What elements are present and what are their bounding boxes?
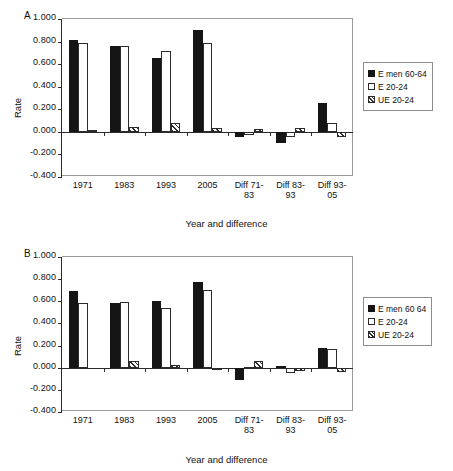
legend-label: UE 20-24 bbox=[378, 330, 414, 340]
x-tick-label: 2005 bbox=[187, 415, 229, 425]
y-tick-label: 0.000 bbox=[14, 361, 56, 371]
legend-swatch-icon bbox=[368, 83, 375, 90]
legend-item: E men 60-64 bbox=[368, 67, 427, 80]
x-tick-label-line: 05 bbox=[311, 190, 353, 200]
y-tick-label: 0.200 bbox=[14, 339, 56, 349]
x-tick-label: Diff 83-93 bbox=[270, 415, 312, 435]
y-tick bbox=[58, 109, 62, 110]
legend-b: E men 60 64E 20-24UE 20-24 bbox=[363, 297, 432, 346]
legend-swatch-icon bbox=[368, 305, 375, 312]
bar bbox=[244, 132, 254, 135]
x-tick-label: Diff 83-93 bbox=[270, 180, 312, 200]
x-tick-label: Diff 93-05 bbox=[311, 180, 353, 200]
y-tick-label: 0.000 bbox=[14, 125, 56, 135]
bar bbox=[161, 51, 171, 132]
x-tick-label: 1971 bbox=[62, 180, 104, 190]
x-tick-label-line: Diff 93- bbox=[311, 180, 353, 190]
x-tick bbox=[228, 132, 229, 136]
bar bbox=[212, 128, 222, 131]
bar bbox=[78, 43, 88, 132]
y-tick-label: 0.800 bbox=[14, 35, 56, 45]
x-axis-title-a: Year and difference bbox=[0, 218, 453, 229]
x-tick-label-line: 1971 bbox=[62, 415, 104, 425]
x-tick-label-line: Diff 71- bbox=[228, 180, 270, 190]
y-tick bbox=[58, 279, 62, 280]
bar bbox=[171, 123, 181, 132]
x-tick bbox=[145, 132, 146, 136]
x-tick-label-line: 83 bbox=[228, 425, 270, 435]
y-tick bbox=[58, 390, 62, 391]
x-tick-label: 1983 bbox=[104, 180, 146, 190]
y-tick bbox=[58, 87, 62, 88]
y-tick bbox=[58, 177, 62, 178]
y-tick-label: -0.200 bbox=[14, 383, 56, 393]
bar bbox=[212, 368, 222, 370]
x-tick bbox=[187, 132, 188, 136]
bar bbox=[129, 361, 139, 368]
legend-item: E 20-24 bbox=[368, 80, 427, 93]
bar bbox=[244, 367, 254, 369]
y-tick bbox=[58, 154, 62, 155]
bar bbox=[171, 365, 181, 368]
x-tick-label: 2005 bbox=[187, 180, 229, 190]
x-tick-label-line: 1993 bbox=[145, 180, 187, 190]
bar bbox=[193, 282, 203, 368]
y-tick-label: -0.400 bbox=[14, 405, 56, 415]
bar bbox=[203, 290, 213, 368]
x-axis-title-b: Year and difference bbox=[0, 454, 453, 465]
bar bbox=[110, 46, 120, 132]
bar bbox=[295, 128, 305, 132]
zero-baseline bbox=[62, 132, 353, 133]
x-tick-label-line: 2005 bbox=[187, 415, 229, 425]
bar bbox=[193, 30, 203, 132]
x-tick bbox=[228, 368, 229, 372]
legend-label: UE 20-24 bbox=[378, 95, 414, 105]
y-tick bbox=[58, 323, 62, 324]
bar bbox=[152, 58, 162, 132]
x-tick-label-line: 83 bbox=[228, 190, 270, 200]
x-tick-label-line: Diff 71- bbox=[228, 415, 270, 425]
bar bbox=[318, 348, 328, 367]
bar bbox=[69, 40, 79, 131]
y-tick bbox=[58, 64, 62, 65]
y-tick bbox=[58, 42, 62, 43]
y-axis-line bbox=[61, 257, 62, 412]
legend-swatch-icon bbox=[368, 70, 375, 77]
y-tick-label: 0.400 bbox=[14, 80, 56, 90]
legend-label: E 20-24 bbox=[378, 317, 408, 327]
y-tick-label: 0.800 bbox=[14, 272, 56, 282]
x-tick-label: Diff 71-83 bbox=[228, 415, 270, 435]
y-tick-label: 0.400 bbox=[14, 316, 56, 326]
y-tick bbox=[58, 19, 62, 20]
y-tick bbox=[58, 412, 62, 413]
legend-label: E men 60-64 bbox=[378, 69, 427, 79]
y-tick-label: 1.000 bbox=[14, 12, 56, 22]
legend-label: E 20-24 bbox=[378, 82, 408, 92]
bar bbox=[327, 123, 337, 131]
x-tick-label-line: 1971 bbox=[62, 180, 104, 190]
bar bbox=[69, 291, 79, 368]
y-axis-line bbox=[61, 19, 62, 177]
bar bbox=[152, 301, 162, 367]
y-tick bbox=[58, 301, 62, 302]
bar bbox=[276, 366, 286, 368]
x-tick bbox=[311, 132, 312, 136]
chart-panel-b: B Rate Year and difference E men 60 64E … bbox=[0, 240, 453, 471]
plot-area-a bbox=[62, 18, 353, 176]
y-tick-label: 1.000 bbox=[14, 250, 56, 260]
x-tick bbox=[270, 368, 271, 372]
x-tick-label-line: 1983 bbox=[104, 180, 146, 190]
bar bbox=[318, 103, 328, 132]
bar bbox=[120, 302, 130, 367]
x-tick bbox=[187, 368, 188, 372]
bar bbox=[235, 132, 245, 138]
y-tick-label: -0.200 bbox=[14, 147, 56, 157]
bar bbox=[161, 308, 171, 368]
plot-area-b bbox=[62, 256, 353, 411]
x-tick-label: 1971 bbox=[62, 415, 104, 425]
x-tick bbox=[104, 368, 105, 372]
y-tick bbox=[58, 132, 62, 133]
y-tick bbox=[58, 368, 62, 369]
bar bbox=[129, 127, 139, 132]
bar bbox=[203, 43, 213, 132]
